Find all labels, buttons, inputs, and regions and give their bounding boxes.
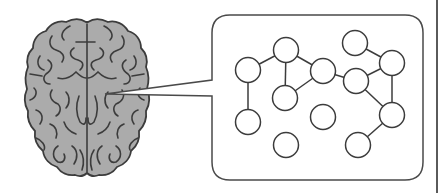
vertical-divider: [436, 0, 438, 193]
graph-node: [343, 31, 368, 56]
graph-node: [346, 133, 371, 158]
graph-node: [344, 69, 369, 94]
graph-node: [274, 133, 299, 158]
graph-node: [380, 103, 405, 128]
diagram-canvas: [0, 0, 445, 193]
graph-node: [274, 38, 299, 63]
figure: Brain with callout to a network graph of…: [0, 0, 445, 193]
graph-node: [236, 58, 261, 83]
graph-node: [311, 59, 336, 84]
graph-node: [311, 105, 336, 130]
graph-node: [380, 51, 405, 76]
brain-icon: [25, 19, 149, 176]
graph-node: [236, 110, 261, 135]
callout-box: [105, 15, 423, 180]
graph-node: [273, 86, 298, 111]
